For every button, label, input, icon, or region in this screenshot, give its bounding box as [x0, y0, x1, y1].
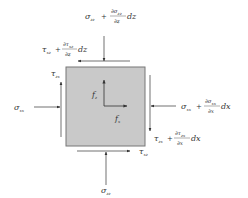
right-shear-label: τzx + ∂τzx ∂x dx: [154, 130, 201, 146]
svg-text:∂x: ∂x: [208, 108, 215, 114]
svg-text:σzz: σzz: [85, 12, 96, 22]
bottom-shear-label: τxz: [139, 147, 149, 157]
top-shear-label: τxz + ∂τxz ∂z dz: [42, 41, 88, 57]
svg-text:τzx: τzx: [154, 134, 164, 144]
svg-text:∂z: ∂z: [114, 18, 120, 24]
svg-text:τxz: τxz: [42, 45, 52, 55]
svg-text:dz: dz: [127, 12, 137, 21]
element-square: [66, 67, 145, 146]
svg-text:+: +: [196, 103, 202, 111]
svg-text:+: +: [55, 46, 61, 54]
svg-text:+: +: [167, 135, 173, 143]
left-normal-label: σxx: [14, 103, 25, 113]
right-normal-label: σxx + ∂σxx ∂x dx: [181, 98, 231, 114]
svg-text:∂z: ∂z: [65, 51, 71, 57]
svg-text:∂σzz: ∂σzz: [111, 8, 123, 16]
svg-text:∂σxx: ∂σxx: [205, 98, 217, 106]
svg-text:∂x: ∂x: [177, 140, 184, 146]
stress-element-diagram: fz fx σzz + ∂σzz ∂z dz τxz + ∂τxz ∂z dz …: [0, 0, 248, 198]
bottom-normal-label: σzz: [101, 186, 112, 196]
svg-text:∂τxz: ∂τxz: [63, 41, 74, 49]
top-normal-label: σzz + ∂σzz ∂z dz: [85, 8, 137, 24]
svg-text:dz: dz: [78, 45, 88, 54]
svg-text:+: +: [101, 13, 107, 21]
svg-text:σxx: σxx: [181, 102, 192, 112]
svg-text:dx: dx: [221, 102, 231, 111]
left-shear-label: τzx: [51, 69, 61, 79]
svg-text:∂τzx: ∂τzx: [175, 130, 186, 138]
svg-text:dx: dx: [191, 134, 201, 143]
